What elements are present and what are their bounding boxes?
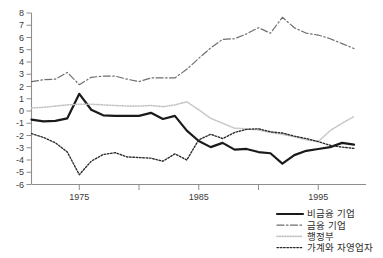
- y-tick-label: 1: [19, 94, 24, 104]
- chart-figure: 876543210-1-2-3-4-5-6 197519851995 비금융 기…: [0, 0, 383, 258]
- y-tick-label: 4: [19, 57, 24, 67]
- legend-label-1: 금융 기업: [307, 220, 346, 231]
- y-axis-group: 876543210-1-2-3-4-5-6: [16, 8, 32, 190]
- y-tick-label: 8: [19, 8, 24, 18]
- y-tick-label: -6: [16, 180, 24, 190]
- legend-label-0: 비금융 기업: [307, 208, 355, 219]
- data-series-group: [32, 17, 355, 174]
- y-tick-label: 7: [19, 20, 24, 30]
- y-tick-label: 5: [19, 45, 24, 55]
- y-tick-label: -4: [16, 155, 24, 165]
- y-tick-label: 6: [19, 33, 24, 43]
- y-tick-label: -1: [16, 118, 24, 128]
- x-axis-ticks: [79, 185, 318, 191]
- y-axis-tick-labels: 876543210-1-2-3-4-5-6: [16, 8, 24, 190]
- y-tick-label: -3: [16, 143, 24, 153]
- line-chart-canvas: 876543210-1-2-3-4-5-6 197519851995 비금융 기…: [0, 0, 383, 258]
- y-tick-label: 3: [19, 69, 24, 79]
- chart-legend: 비금융 기업금융 기업행정부가계와 자영업자: [277, 208, 373, 253]
- y-tick-label: 2: [19, 82, 24, 92]
- x-tick-label: 1985: [189, 192, 209, 202]
- series-line-1: [32, 17, 355, 84]
- legend-label-3: 가계와 자영업자: [307, 242, 373, 253]
- legend-label-2: 행정부: [307, 231, 334, 242]
- x-axis-group: 197519851995: [32, 185, 367, 203]
- y-axis-ticks: [27, 13, 32, 185]
- x-tick-label: 1995: [308, 192, 328, 202]
- y-tick-label: -5: [16, 167, 24, 177]
- y-tick-label: -2: [16, 131, 24, 141]
- x-axis-tick-labels: 197519851995: [69, 192, 328, 202]
- y-tick-label: 0: [19, 106, 24, 116]
- x-tick-label: 1975: [69, 192, 89, 202]
